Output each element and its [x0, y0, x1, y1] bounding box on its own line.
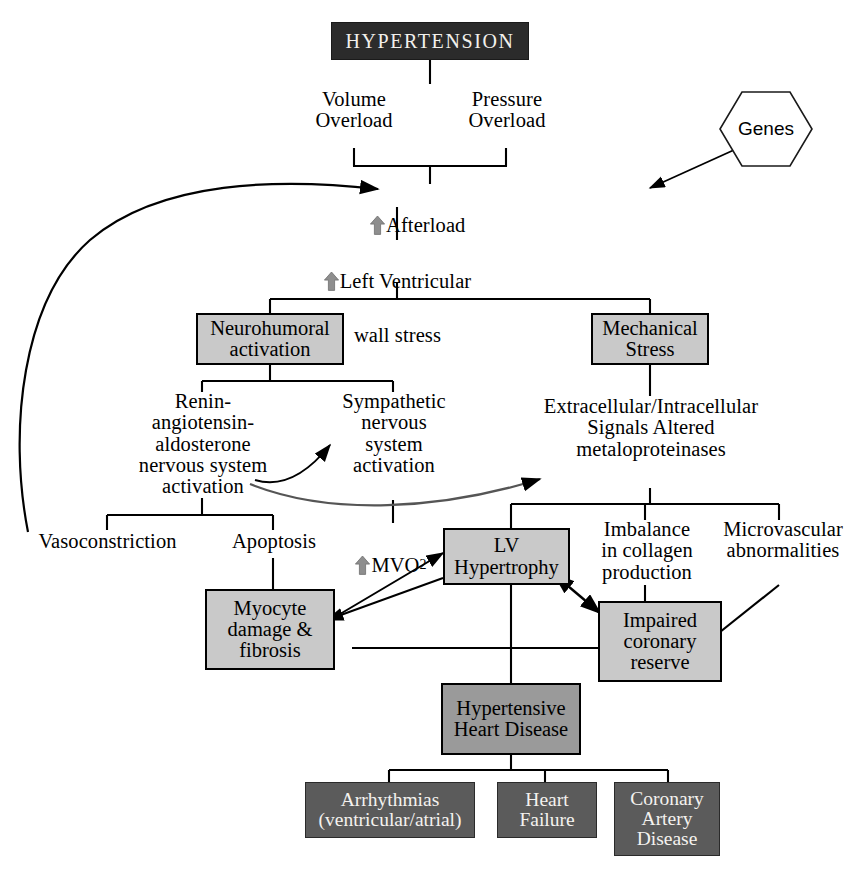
- box-myocyte-damage: Myocyte damage & fibrosis: [205, 589, 335, 670]
- label-vasoconstriction: Vasoconstriction: [16, 531, 199, 552]
- label-volume-overload: Volume Overload: [294, 89, 414, 132]
- impaired-coronary-label: Impaired coronary reserve: [623, 610, 697, 674]
- label-extracellular-signals: Extracellular/Intracellular Signals Alte…: [483, 396, 819, 460]
- title-banner-label: HYPERTENSION: [345, 31, 514, 52]
- box-mechanical-stress: Mechanical Stress: [591, 313, 709, 365]
- coronary-artery-disease-label: Coronary Artery Disease: [630, 789, 704, 850]
- mvo2-text: MVO: [371, 555, 419, 576]
- label-pressure-overload: Pressure Overload: [447, 89, 567, 132]
- label-renin-angiotensin: Renin- angiotensin- aldosterone nervous …: [98, 391, 308, 498]
- label-apoptosis: Apoptosis: [212, 531, 336, 552]
- title-banner: HYPERTENSION: [331, 22, 529, 60]
- heart-failure-label: Heart Failure: [519, 790, 574, 831]
- box-heart-failure: Heart Failure: [497, 782, 597, 838]
- arrhythmias-label: Arrhythmias (ventricular/atrial): [319, 790, 462, 831]
- mvo2-subscript: 2: [420, 558, 427, 573]
- box-neurohumoral-activation: Neurohumoral activation: [196, 313, 344, 365]
- edge-lv-hypertrophy-impaired-coronary: [568, 586, 600, 613]
- box-lv-hypertrophy: LV Hypertrophy: [443, 528, 570, 585]
- hypertensive-heart-disease-label: Hypertensive Heart Disease: [454, 698, 568, 741]
- myocyte-damage-label: Myocyte damage & fibrosis: [228, 598, 313, 662]
- label-sympathetic: Sympathetic nervous system activation: [328, 391, 460, 476]
- up-arrow-icon: [324, 256, 339, 308]
- genes-label: Genes: [718, 90, 814, 168]
- diagram-canvas: HYPERTENSION Volume Overload Pressure Ov…: [0, 0, 865, 869]
- up-arrow-icon: [355, 540, 370, 592]
- mechanical-stress-label: Mechanical Stress: [602, 318, 698, 361]
- label-microvascular: Microvascular abnormalities: [707, 519, 859, 562]
- box-hypertensive-heart-disease: Hypertensive Heart Disease: [441, 683, 581, 755]
- afterload-text: Afterload: [386, 215, 465, 236]
- box-coronary-artery-disease: Coronary Artery Disease: [614, 782, 720, 856]
- box-impaired-coronary-reserve: Impaired coronary reserve: [598, 601, 722, 682]
- genes-node: Genes: [718, 90, 814, 168]
- neurohumoral-label: Neurohumoral activation: [210, 318, 330, 361]
- label-imbalance-collagen: Imbalance in collagen production: [583, 519, 711, 583]
- box-arrhythmias: Arrhythmias (ventricular/atrial): [305, 782, 475, 838]
- label-mvo2: MVO2: [325, 523, 457, 609]
- lv-wall-stress-line1: Left Ventricular: [340, 271, 472, 292]
- lv-hypertrophy-label: LV Hypertrophy: [454, 535, 559, 578]
